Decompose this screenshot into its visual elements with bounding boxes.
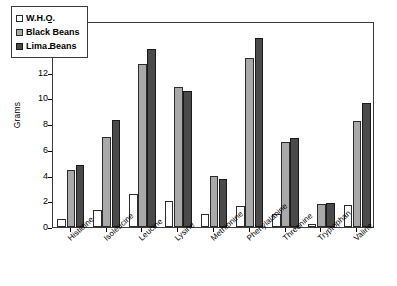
plot-area — [53, 23, 373, 227]
legend-label-black-beans: Black Beans — [26, 27, 80, 37]
bar-threonine-lima-beans — [290, 138, 299, 227]
plot-frame — [52, 22, 374, 228]
y-axis-tick-label: 12 — [26, 69, 48, 78]
y-axis-tick-mark — [48, 48, 52, 49]
bar-isoleucine-lima-beans — [112, 120, 121, 227]
y-axis-tick-mark — [48, 99, 52, 100]
y-axis-tick-label: 10 — [26, 94, 48, 103]
y-axis-tick-label: 0 — [26, 223, 48, 232]
bar-phenylalanine-black-beans — [245, 58, 254, 227]
bar-valine-lima-beans — [362, 103, 371, 227]
y-axis-tick-label: 4 — [26, 172, 48, 181]
bar-lysine-black-beans — [174, 87, 183, 227]
bar-isoleucine-black-beans — [102, 137, 111, 227]
legend-swatch-black-beans-icon — [16, 29, 23, 36]
bar-histidine-lima-beans — [76, 165, 85, 227]
bar-tryptophan-black-beans — [317, 204, 326, 227]
y-axis-tick-mark — [48, 74, 52, 75]
bar-leucine-black-beans — [138, 64, 147, 228]
bar-lysine-w-h-o — [165, 201, 174, 227]
bar-chart-figure: Grams 0246810121416 W.H.O. Black Beans L… — [0, 0, 397, 286]
y-axis-tick-mark — [48, 22, 52, 23]
bar-valine-black-beans — [353, 121, 362, 227]
y-axis-tick-mark — [48, 202, 52, 203]
y-axis-tick-label: 2 — [26, 197, 48, 206]
bar-histidine-black-beans — [67, 170, 76, 227]
legend-swatch-lima-beans-icon — [16, 43, 23, 50]
y-axis-tick-mark — [48, 125, 52, 126]
bar-phenylalanine-lima-beans — [255, 38, 264, 227]
y-axis-tick-mark — [48, 151, 52, 152]
bar-tryptophan-w-h-o — [308, 224, 317, 227]
legend-swatch-who-icon — [16, 15, 23, 22]
bar-methionine-black-beans — [210, 176, 219, 228]
legend-item-lima-beans: Lima Beans — [16, 39, 80, 53]
chart-legend: W.H.O. Black Beans Lima Beans — [11, 6, 88, 58]
y-axis-tick-mark — [48, 177, 52, 178]
y-axis-tick-label: 6 — [26, 146, 48, 155]
bar-methionine-w-h-o — [201, 214, 210, 227]
bar-histidine-w-h-o — [57, 219, 66, 227]
legend-item-black-beans: Black Beans — [16, 25, 80, 39]
bar-lysine-lima-beans — [183, 91, 192, 227]
y-axis-tick-label: 8 — [26, 120, 48, 129]
bar-isoleucine-w-h-o — [93, 210, 102, 227]
y-axis-title: Grams — [12, 80, 22, 150]
bar-leucine-lima-beans — [147, 49, 156, 227]
legend-label-lima-beans: Lima Beans — [26, 41, 77, 51]
y-axis-tick-mark — [48, 228, 52, 229]
